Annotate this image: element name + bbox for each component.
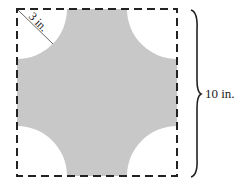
radius-label: 3 in. bbox=[26, 9, 51, 34]
side-length-label: 10 in. bbox=[205, 86, 235, 101]
side-brace bbox=[191, 10, 201, 177]
diagram: 3 in. 10 in. bbox=[0, 0, 246, 186]
